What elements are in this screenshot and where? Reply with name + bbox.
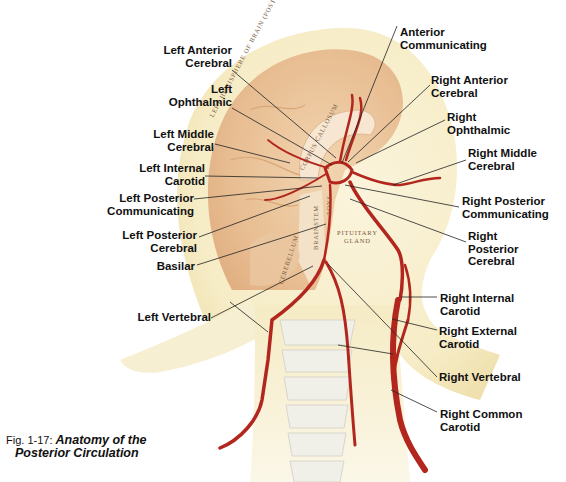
label-line: Anterior [400, 26, 487, 39]
label-basilar: Basilar [157, 260, 195, 273]
pituitary-label: PITUITARY GLAND [337, 229, 378, 245]
label-line: Left Posterior [122, 229, 197, 242]
label-right-ophthalmic: Right Ophthalmic [447, 111, 510, 136]
label-line: Carotid [139, 175, 205, 188]
label-line: Left Posterior [107, 192, 194, 205]
label-line: Left Middle [153, 128, 214, 141]
label-right-middle-cerebral: Right Middle Cerebral [468, 147, 537, 172]
label-line: Right Internal [440, 292, 514, 305]
label-right-posterior-communicating: Right Posterior Communicating [462, 195, 549, 220]
label-right-external-carotid: Right External Carotid [439, 325, 517, 350]
figure-caption: Fig. 1-17: Anatomy of the Posterior Circ… [6, 434, 147, 460]
label-left-ophthalmic: Left Ophthalmic [169, 83, 232, 108]
label-line: Left Anterior [163, 44, 232, 57]
label-right-common-carotid: Right Common Carotid [440, 408, 522, 433]
label-left-middle-cerebral: Left Middle Cerebral [153, 128, 214, 153]
label-right-anterior-cerebral: Right Anterior Cerebral [431, 74, 508, 99]
pituitary-line1: PITUITARY [337, 229, 378, 237]
label-line: Cerebral [122, 242, 197, 255]
label-line: Ophthalmic [447, 124, 510, 137]
label-line: Right External [439, 325, 517, 338]
label-line: Left [169, 83, 232, 96]
label-line: Right [468, 230, 519, 243]
label-right-posterior-cerebral: Right Posterior Cerebral [468, 230, 519, 268]
label-left-posterior-cerebral: Left Posterior Cerebral [122, 229, 197, 254]
brainstem-label: BRAINSTEM [312, 205, 319, 250]
label-line: Right Common [440, 408, 522, 421]
label-line: Right Middle [468, 147, 537, 160]
label-line: Communicating [400, 39, 487, 52]
label-line: Left Internal [139, 162, 205, 175]
label-anterior-communicating: Anterior Communicating [400, 26, 487, 51]
figure-number: Fig. 1-17: [6, 434, 52, 446]
label-line: Ophthalmic [169, 96, 232, 109]
label-right-vertebral: Right Vertebral [439, 371, 521, 384]
label-line: Carotid [440, 421, 522, 434]
label-line: Cerebral [163, 57, 232, 70]
label-line: Cerebral [468, 160, 537, 173]
pons-label: PONS [325, 195, 332, 215]
label-line: Right Posterior [462, 195, 549, 208]
label-line: Right Vertebral [439, 371, 521, 384]
label-line: Left Vertebral [138, 311, 212, 324]
label-line: Right [447, 111, 510, 124]
figure-title-line2: Posterior Circulation [6, 447, 147, 460]
label-left-internal-carotid: Left Internal Carotid [139, 162, 205, 187]
label-line: Cerebral [153, 141, 214, 154]
label-right-internal-carotid: Right Internal Carotid [440, 292, 514, 317]
label-line: Carotid [439, 338, 517, 351]
pituitary-line2: GLAND [337, 237, 378, 245]
label-line: Carotid [440, 305, 514, 318]
label-line: Cerebral [468, 255, 519, 268]
label-left-posterior-communicating: Left Posterior Communicating [107, 192, 194, 217]
label-line: Communicating [107, 205, 194, 218]
label-line: Communicating [462, 208, 549, 221]
label-line: Right Anterior [431, 74, 508, 87]
label-line: Basilar [157, 260, 195, 273]
label-left-vertebral: Left Vertebral [138, 311, 212, 324]
label-left-anterior-cerebral: Left Anterior Cerebral [163, 44, 232, 69]
label-line: Cerebral [431, 87, 508, 100]
label-line: Posterior [468, 243, 519, 256]
figure-title-line1: Anatomy of the [56, 433, 147, 447]
